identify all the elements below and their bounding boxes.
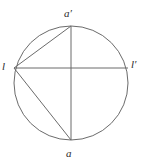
circle-diagram-canvas [0, 0, 145, 167]
chord-l-to-a-line [14, 68, 71, 140]
geometry-figure: a′ a l l′ [0, 0, 145, 167]
vertex-label-a: a [66, 148, 72, 159]
chord-l-to-a-prime-line [14, 26, 71, 68]
vertex-label-l: l [2, 61, 5, 72]
vertex-label-l-prime: l′ [131, 59, 136, 70]
vertex-label-a-prime: a′ [64, 8, 72, 19]
